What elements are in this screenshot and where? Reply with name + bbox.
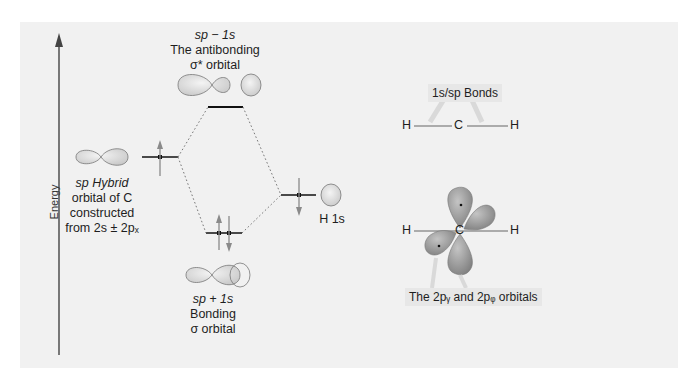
atom-h-left-bottom: H — [402, 223, 411, 237]
bonds-tag: 1s/sp Bonds — [428, 84, 502, 102]
atom-h-right-top: H — [510, 118, 519, 132]
spin-up-arrow-icon — [157, 140, 163, 176]
atom-c-bottom: C — [455, 223, 464, 237]
p-orbitals-diagram — [414, 187, 508, 288]
atom-h-right-bottom: H — [510, 223, 519, 237]
antibonding-label: sp − 1s The antibonding σ* orbital — [160, 28, 270, 73]
antibonding-label-line2: The antibonding — [160, 43, 270, 58]
sp-hybrid-label: sp Hybrid orbital of C constructed from … — [52, 176, 152, 236]
sp-hybrid-label-line2: orbital of C — [52, 191, 152, 206]
p-orbitals-tag: The 2pᵧ and 2pᵩ orbitals — [405, 288, 542, 306]
h1s-label: H 1s — [312, 212, 352, 227]
sp-hybrid-label-line1: sp Hybrid — [76, 176, 129, 190]
bonding-label: sp + 1s Bonding σ orbital — [168, 292, 258, 337]
spin-down-arrow-icon — [296, 178, 302, 216]
atom-h-left-top: H — [402, 118, 411, 132]
bonding-label-line2: Bonding — [168, 307, 258, 322]
antibonding-label-line3: σ* orbital — [160, 58, 270, 73]
arrow-up-icon — [55, 33, 63, 47]
antibonding-label-line1: sp − 1s — [195, 28, 236, 42]
atom-c-top: C — [454, 118, 463, 132]
sp-hybrid-label-line4: from 2s ± 2pₓ — [52, 221, 152, 236]
sp-hybrid-orbital-shape — [76, 149, 128, 166]
h1s-orbital-shape — [321, 184, 341, 206]
sp-hybrid-label-line3: constructed — [52, 206, 152, 221]
correlation-lines — [178, 107, 281, 233]
antibonding-orbital-shape — [178, 74, 261, 96]
bonding-label-line1: sp + 1s — [193, 292, 234, 306]
bonding-orbital-shape — [186, 263, 250, 287]
bonding-label-line3: σ orbital — [168, 322, 258, 337]
